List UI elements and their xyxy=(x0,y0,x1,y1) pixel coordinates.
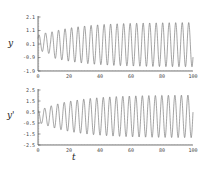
x-tick-label: 100 xyxy=(188,147,197,153)
x-tick-label: 60 xyxy=(128,147,134,153)
x-tick-label: 40 xyxy=(97,147,103,153)
y-tick-label: 1.1 xyxy=(26,27,35,33)
x-tick-label: 0 xyxy=(36,147,39,153)
y-tick-label: -0.5 xyxy=(23,120,35,126)
x-tick-label: 80 xyxy=(159,147,165,153)
data-series-line xyxy=(38,95,193,138)
x-tick-label: 60 xyxy=(128,73,134,79)
y-tick-label: -1.9 xyxy=(23,68,35,74)
y-tick-label: 0.1 xyxy=(26,41,35,47)
chart-figure: 2.11.10.1-0.9-1.9020406080100y2.51.50.5-… xyxy=(0,0,204,169)
y-tick-label: -2.5 xyxy=(23,142,35,148)
x-tick-label: 20 xyxy=(66,73,72,79)
y-tick-label: 0.5 xyxy=(26,109,35,115)
y-tick-label: -0.9 xyxy=(23,54,35,60)
lower-plot: 2.51.50.5-0.5-1.5-2.5020406080100y't xyxy=(6,87,198,162)
y-axis-label: y xyxy=(7,38,14,48)
data-series-line xyxy=(38,23,193,67)
x-tick-label: 80 xyxy=(159,73,165,79)
y-tick-label: -1.5 xyxy=(23,131,35,137)
x-axis-label: t xyxy=(72,152,76,162)
y-tick-label: 2.1 xyxy=(26,14,35,20)
y-axis-label: y' xyxy=(6,110,15,120)
x-tick-label: 40 xyxy=(97,73,103,79)
x-tick-label: 0 xyxy=(36,73,39,79)
upper-plot: 2.11.10.1-0.9-1.9020406080100y xyxy=(7,14,198,79)
x-tick-label: 100 xyxy=(188,73,197,79)
y-tick-label: 1.5 xyxy=(26,98,35,104)
y-tick-label: 2.5 xyxy=(26,87,35,93)
